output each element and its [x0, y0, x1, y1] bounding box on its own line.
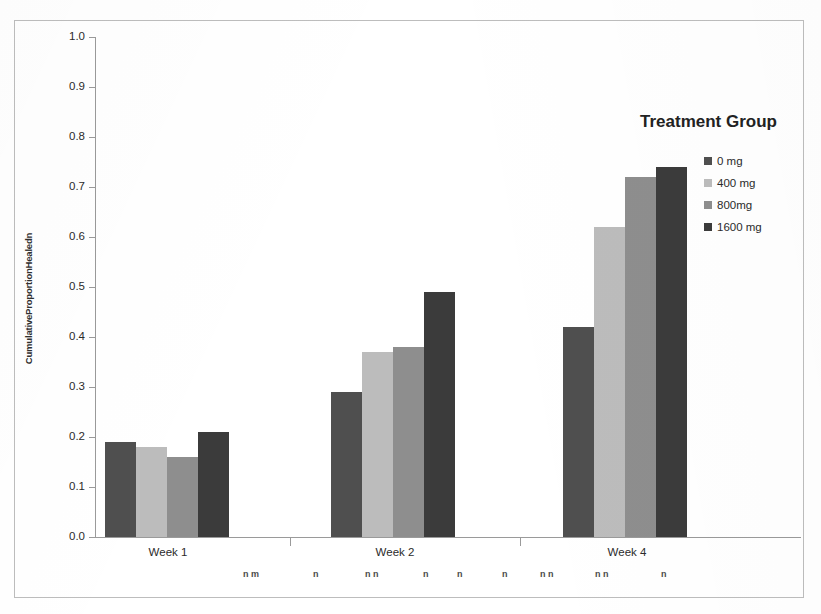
bar [362, 352, 393, 537]
y-tick-label: 0.1 [45, 481, 85, 493]
scan-artifact-mark: n n [595, 569, 609, 579]
scan-artifact-mark: n [423, 569, 429, 579]
y-tick-label: 0.4 [45, 331, 85, 343]
group-separator-tick [290, 537, 291, 546]
group-separator-tick [520, 537, 521, 546]
legend-item-label: 800mg [717, 199, 752, 211]
y-tick-label-text: 0.6 [51, 231, 85, 243]
y-tick-mark [89, 37, 95, 38]
y-tick-label-text: 0.9 [51, 81, 85, 93]
bar [167, 457, 198, 537]
legend-item: 400 mg [704, 172, 762, 194]
y-tick-label-text: 0.2 [51, 431, 85, 443]
x-axis-group-label: Week 2 [345, 546, 445, 558]
legend-title: Treatment Group [640, 112, 777, 132]
y-tick-mark [89, 137, 95, 138]
y-tick-label-text: 0.3 [51, 381, 85, 393]
y-tick-mark [89, 437, 95, 438]
legend-swatch-icon [704, 179, 712, 187]
y-tick-label: 0.2 [45, 431, 85, 443]
y-tick-label: 0.7 [45, 181, 85, 193]
bar [393, 347, 424, 537]
scan-artifact-mark: n [502, 569, 508, 579]
y-tick-label-text: 1.0 [51, 31, 85, 43]
bar [424, 292, 455, 537]
scan-artifact-mark: n m [243, 569, 259, 579]
y-tick-label-text: 0.7 [51, 181, 85, 193]
bar [625, 177, 656, 537]
y-tick-mark [89, 87, 95, 88]
scan-artifact-mark: n [661, 569, 667, 579]
bar [198, 432, 229, 537]
legend-item-label: 1600 mg [717, 221, 762, 233]
legend-item: 800mg [704, 194, 762, 216]
y-tick-mark [89, 287, 95, 288]
y-tick-mark [89, 237, 95, 238]
y-tick-label-text: 0.1 [51, 481, 85, 493]
y-tick-label: 0.5 [45, 281, 85, 293]
y-tick-label: 0.8 [45, 131, 85, 143]
legend-swatch-icon [704, 201, 712, 209]
y-tick-label: 0.0 [45, 531, 85, 543]
scan-artifact-mark: n [457, 569, 463, 579]
bar [105, 442, 136, 537]
y-tick-mark [89, 387, 95, 388]
legend-swatch-icon [704, 223, 712, 231]
x-axis-group-label: Week 4 [577, 546, 677, 558]
y-tick-label: 0.9 [45, 81, 85, 93]
y-tick-label: 0.6 [45, 231, 85, 243]
legend-item-label: 400 mg [717, 177, 755, 189]
legend-item: 1600 mg [704, 216, 762, 238]
bar [656, 167, 687, 537]
bar [563, 327, 594, 537]
y-tick-mark [89, 537, 95, 538]
legend-item: 0 mg [704, 150, 762, 172]
y-axis-line [95, 37, 96, 538]
y-tick-mark [89, 187, 95, 188]
scan-artifact-mark: n [313, 569, 319, 579]
x-axis-group-label: Week 1 [118, 546, 218, 558]
bar [136, 447, 167, 537]
chart-screenshot: CumulativeProportionHealedn 0.00.10.20.3… [0, 0, 821, 614]
y-axis-title: CumulativeProportionHealedn [23, 204, 34, 394]
legend-swatch-icon [704, 157, 712, 165]
y-tick-mark [89, 487, 95, 488]
scan-artifact-mark: n n [365, 569, 379, 579]
bar [594, 227, 625, 537]
y-tick-label: 0.3 [45, 381, 85, 393]
y-tick-label-text: 0.0 [51, 531, 85, 543]
y-tick-label-text: 0.8 [51, 131, 85, 143]
y-tick-mark [89, 337, 95, 338]
legend-item-label: 0 mg [717, 155, 743, 167]
y-tick-label: 1.0 [45, 31, 85, 43]
y-tick-label-text: 0.5 [51, 281, 85, 293]
scan-artifact-mark: n n [540, 569, 554, 579]
x-axis-line [95, 537, 801, 538]
bar [331, 392, 362, 537]
plot-area: CumulativeProportionHealedn 0.00.10.20.3… [0, 0, 821, 614]
y-tick-label-text: 0.4 [51, 331, 85, 343]
legend: 0 mg400 mg800mg1600 mg [704, 150, 762, 238]
